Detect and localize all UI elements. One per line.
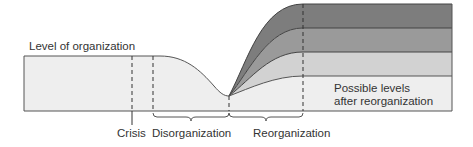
- y-axis-label: Level of organization: [29, 40, 135, 52]
- annotation-line1: Possible levels: [334, 82, 410, 94]
- phase-label-reorganization: Reorganization: [253, 127, 330, 139]
- phase-label-crisis: Crisis: [117, 127, 146, 139]
- disorganization-brace: [153, 113, 229, 121]
- annotation-line2: after reorganization: [334, 95, 433, 107]
- phase-label-disorganization: Disorganization: [152, 127, 231, 139]
- baseline-area: [24, 56, 229, 111]
- reorganization-brace: [229, 113, 303, 121]
- crisis-reorganization-diagram: Level of organization Crisis Disorganiza…: [0, 0, 473, 147]
